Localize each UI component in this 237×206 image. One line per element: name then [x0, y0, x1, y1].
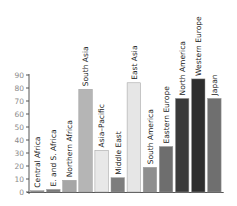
- category-label: Western Europe: [194, 16, 203, 76]
- bar-northern-africa: [63, 180, 76, 192]
- bar-chart: 0102030405060708090 Central AfricaE. and…: [0, 0, 237, 206]
- bar-western-europe: [192, 79, 206, 192]
- y-tick-label: 80: [14, 84, 24, 93]
- category-label: East Asia: [130, 46, 139, 80]
- bar-japan: [208, 98, 222, 192]
- category-label: Central Africa: [33, 137, 42, 188]
- bar-south-asia: [79, 89, 93, 192]
- y-tick-label: 50: [14, 123, 24, 132]
- category-labels: Central AfricaE. and S. AfricaNorthern A…: [33, 16, 219, 188]
- bar-eastern-europe: [159, 147, 173, 193]
- bars: [31, 79, 222, 192]
- bar-central-africa: [31, 191, 45, 192]
- bar-e-and-s-africa: [47, 189, 61, 192]
- y-tick-label: 10: [14, 175, 24, 184]
- category-label: Eastern Europe: [162, 86, 171, 144]
- bar-north-america: [175, 98, 189, 192]
- y-tick-label: 60: [14, 110, 24, 119]
- bar-middle-east: [111, 178, 125, 192]
- y-tick-label: 30: [14, 149, 24, 158]
- y-tick-label: 20: [14, 162, 24, 171]
- category-label: South America: [146, 109, 155, 164]
- category-label: Northern Africa: [65, 120, 74, 177]
- category-label: Asia–Pacific: [97, 104, 106, 147]
- y-tick-label: 70: [14, 97, 24, 106]
- bar-asia-pacific: [95, 150, 109, 192]
- category-label: Japan: [210, 74, 219, 96]
- bar-east-asia: [127, 83, 141, 192]
- bar-south-america: [143, 167, 157, 192]
- category-label: North America: [178, 41, 187, 95]
- category-label: E. and S. Africa: [49, 129, 58, 186]
- y-tick-label: 90: [14, 71, 24, 80]
- category-label: South Asia: [81, 46, 90, 86]
- y-tick-label: 40: [14, 136, 24, 145]
- category-label: Middle East: [114, 131, 123, 174]
- y-tick-label: 0: [19, 188, 24, 197]
